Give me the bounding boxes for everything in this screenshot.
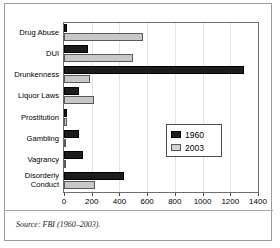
category-label: Liquor Laws <box>18 91 59 100</box>
bar-2003 <box>64 160 66 168</box>
category-axis-labels: Drug AbuseDUIDrunkennessLiquor LawsProst… <box>5 22 59 193</box>
category-label: Disorderly Conduct <box>25 171 59 189</box>
bar-1960 <box>64 109 67 117</box>
x-tick-label: 400 <box>113 197 126 206</box>
legend-item-2003: 2003 <box>171 141 217 154</box>
bar-1960 <box>64 172 124 180</box>
bar-group <box>64 44 258 65</box>
x-tick-label: 1000 <box>194 197 212 206</box>
x-tick-mark <box>175 193 176 196</box>
bar-group <box>64 129 258 150</box>
x-tick-mark <box>203 193 204 196</box>
x-tick-label: 800 <box>168 197 181 206</box>
bar-2003 <box>64 33 143 41</box>
bar-1960 <box>64 24 67 32</box>
category-label: Drug Abuse <box>19 28 59 37</box>
bar-1960 <box>64 87 79 95</box>
x-tick-label: 600 <box>140 197 153 206</box>
x-tick-mark <box>230 193 231 196</box>
legend-swatch-1960 <box>171 131 181 138</box>
x-tick-mark <box>258 193 259 196</box>
bar-group <box>64 150 258 171</box>
bar-group <box>64 86 258 107</box>
bar-2003 <box>64 139 66 147</box>
bar-1960 <box>64 130 79 138</box>
category-label: Prostitution <box>21 113 59 122</box>
x-tick-label: 200 <box>85 197 98 206</box>
bar-2003 <box>64 75 90 83</box>
chart-legend: 1960 2003 <box>166 124 222 157</box>
figure-frame: Drug AbuseDUIDrunkennessLiquor LawsProst… <box>4 3 272 241</box>
category-label: Drunkenness <box>14 70 59 79</box>
source-divider <box>5 210 273 211</box>
x-tick-label: 1400 <box>249 197 267 206</box>
legend-label-2003: 2003 <box>185 143 204 153</box>
bar-group <box>64 108 258 129</box>
x-tick-mark <box>147 193 148 196</box>
chart-plot-block: Drug AbuseDUIDrunkennessLiquor LawsProst… <box>5 4 273 210</box>
legend-item-1960: 1960 <box>171 128 217 141</box>
category-label: Vagrancy <box>27 155 59 164</box>
bar-1960 <box>64 45 88 53</box>
x-tick-mark <box>64 193 65 196</box>
legend-label-1960: 1960 <box>185 130 204 140</box>
bar-2003 <box>64 181 95 189</box>
bar-1960 <box>64 66 244 74</box>
bar-2003 <box>64 118 67 126</box>
bar-2003 <box>64 54 133 62</box>
x-tick-label: 0 <box>62 197 66 206</box>
bars-layer <box>64 23 258 192</box>
bar-group <box>64 65 258 86</box>
bar-2003 <box>64 96 94 104</box>
bar-group <box>64 171 258 192</box>
source-note: Source: FBI (1960–2003). <box>16 220 100 229</box>
category-label: DUI <box>46 49 59 58</box>
bar-1960 <box>64 151 83 159</box>
category-label: Gambling <box>27 134 60 143</box>
x-tick-label: 1200 <box>221 197 239 206</box>
legend-swatch-2003 <box>171 144 181 151</box>
bar-group <box>64 23 258 44</box>
x-tick-mark <box>92 193 93 196</box>
x-tick-mark <box>119 193 120 196</box>
plot-area <box>63 22 259 193</box>
x-axis: 0200400600800100012001400 <box>63 193 259 209</box>
